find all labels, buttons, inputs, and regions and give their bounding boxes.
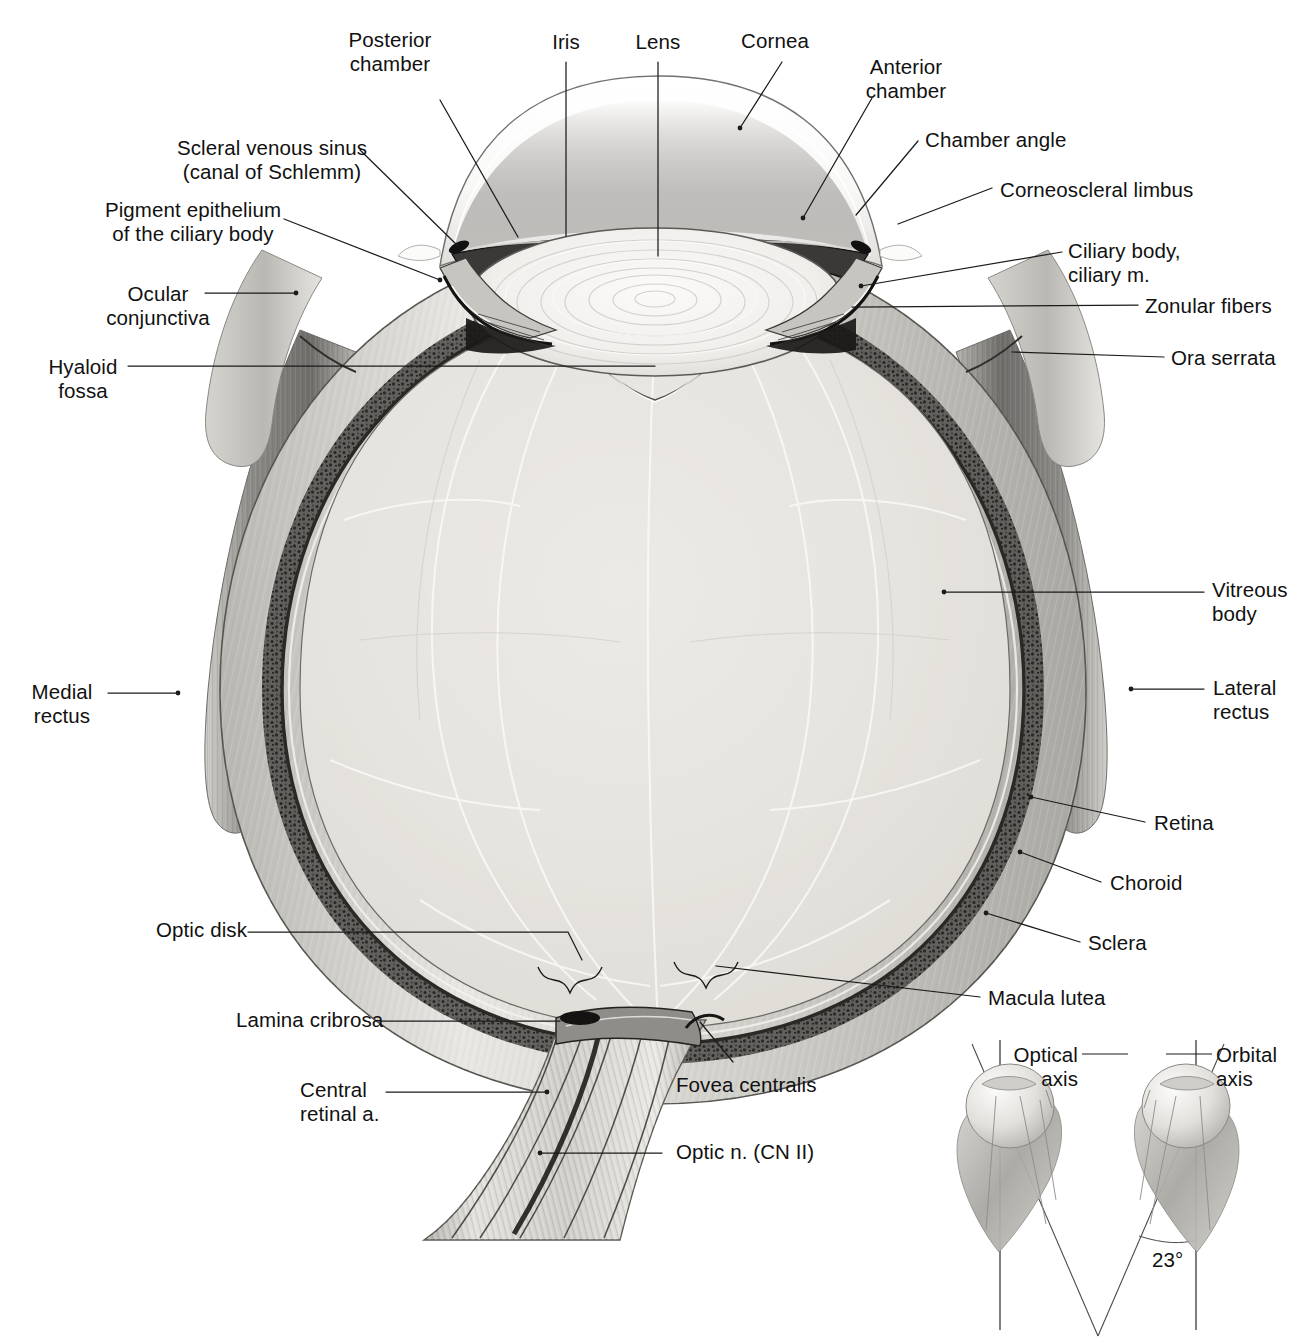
label-sclera: Sclera (1088, 931, 1147, 955)
optic-disk (560, 1011, 600, 1025)
label-orbital-axis: Orbital axis (1216, 1043, 1277, 1091)
label-chamber-angle: Chamber angle (925, 128, 1066, 152)
label-vitreous-body: Vitreous body (1212, 578, 1288, 626)
label-hyaloid-fossa: Hyaloid fossa (48, 355, 117, 403)
label-lateral-rectus: Lateral rectus (1213, 676, 1276, 724)
eye-anatomy-figure: Posterior chamber Iris Lens Cornea Anter… (0, 0, 1313, 1344)
label-retina: Retina (1154, 811, 1214, 835)
label-central-retinal-artery: Central retinal a. (300, 1078, 380, 1126)
label-ciliary-body: Ciliary body, ciliary m. (1068, 239, 1181, 287)
lens (468, 228, 842, 376)
label-cornea: Cornea (741, 29, 809, 53)
label-medial-rectus: Medial rectus (32, 680, 93, 728)
label-posterior-chamber: Posterior chamber (349, 28, 432, 76)
label-ocular-conjunctiva: Ocular conjunctiva (106, 282, 210, 330)
label-optical-axis: Optical axis (1013, 1043, 1078, 1091)
label-ora-serrata: Ora serrata (1171, 346, 1276, 370)
label-iris: Iris (552, 30, 580, 54)
label-lens: Lens (636, 30, 681, 54)
label-corneoscleral-limbus: Corneoscleral limbus (1000, 178, 1193, 202)
label-macula-lutea: Macula lutea (988, 986, 1105, 1010)
vitreous-body (300, 312, 1010, 1028)
label-angle-23-degrees: 23° (1152, 1248, 1183, 1272)
label-lamina-cribrosa: Lamina cribrosa (236, 1008, 383, 1032)
label-fovea-centralis: Fovea centralis (676, 1073, 817, 1097)
label-scleral-venous-sinus: Scleral venous sinus (canal of Schlemm) (177, 136, 367, 184)
label-optic-disk: Optic disk (156, 918, 247, 942)
label-zonular-fibers: Zonular fibers (1145, 294, 1272, 318)
label-pigment-epithelium: Pigment epithelium of the ciliary body (105, 198, 281, 246)
label-choroid: Choroid (1110, 871, 1183, 895)
label-anterior-chamber: Anterior chamber (866, 55, 946, 103)
label-optic-nerve: Optic n. (CN II) (676, 1140, 814, 1164)
